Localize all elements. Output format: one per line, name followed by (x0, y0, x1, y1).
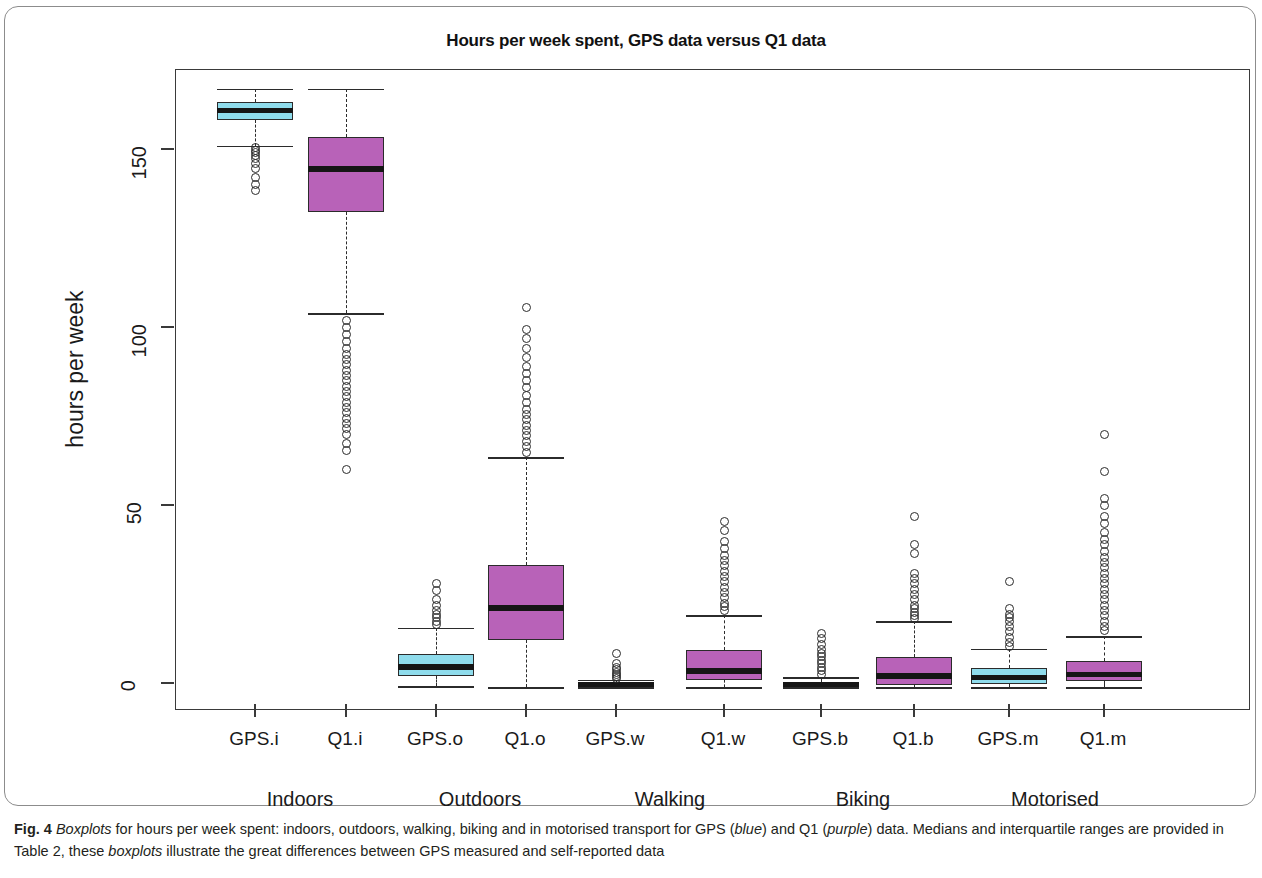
y-axis-title: hours per week (62, 290, 89, 447)
x-tick-label-q1-o: Q1.o (504, 728, 545, 750)
y-tick-label: 100 (128, 324, 151, 357)
whisker-cap-lower (1066, 687, 1142, 689)
group-label-biking: Biking (836, 788, 890, 811)
group-label-indoors: Indoors (267, 788, 334, 811)
caption-segment: Boxplots (56, 821, 112, 837)
x-tick-mark (820, 704, 822, 717)
outlier-point (1100, 519, 1109, 528)
figure-title: Hours per week spent, GPS data versus Q1… (5, 31, 1262, 51)
plot-area (175, 69, 1250, 710)
x-tick-label-gps-b: GPS.b (792, 728, 848, 750)
caption-segment: illustrate the great differences between… (162, 843, 664, 859)
x-tick-label-q1-m: Q1.m (1080, 728, 1126, 750)
caption-segment: purple (827, 821, 867, 837)
boxplot-q1-m (176, 70, 1249, 709)
outlier-point (1100, 501, 1109, 510)
y-tick-mark (161, 326, 174, 328)
outlier-point (1100, 467, 1109, 476)
x-tick-label-gps-i: GPS.i (229, 728, 279, 750)
x-tick-mark (254, 704, 256, 717)
group-label-outdoors: Outdoors (439, 788, 521, 811)
figure-caption: Fig. 4 Boxplots for hours per week spent… (14, 818, 1250, 863)
y-tick-label: 50 (123, 502, 146, 524)
y-tick-mark (161, 682, 174, 684)
x-tick-label-q1-b: Q1.b (892, 728, 933, 750)
median-line (1066, 672, 1142, 677)
boxplot-layer (176, 70, 1249, 709)
x-tick-label-gps-m: GPS.m (977, 728, 1038, 750)
x-tick-mark (345, 704, 347, 717)
caption-segment: for hours per week spent: indoors, outdo… (112, 821, 735, 837)
y-tick-label: 150 (128, 146, 151, 179)
group-label-motorised: Motorised (1011, 788, 1099, 811)
box-iqr (1066, 661, 1142, 681)
caption-segment: blue (735, 821, 762, 837)
whisker-upper (1104, 636, 1105, 661)
x-tick-label-q1-i: Q1.i (328, 728, 363, 750)
y-tick-label: 0 (117, 680, 140, 691)
x-tick-label-gps-w: GPS.w (585, 728, 644, 750)
caption-figure-number: Fig. 4 (14, 821, 52, 837)
outlier-point (1100, 430, 1109, 439)
x-tick-mark (525, 704, 527, 717)
group-label-walking: Walking (635, 788, 705, 811)
y-tick-mark (161, 504, 174, 506)
x-tick-mark (615, 704, 617, 717)
caption-text: Boxplots for hours per week spent: indoo… (14, 821, 1224, 859)
x-tick-label-gps-o: GPS.o (407, 728, 463, 750)
figure-card: Hours per week spent, GPS data versus Q1… (4, 6, 1256, 806)
x-tick-mark (723, 704, 725, 717)
x-tick-mark (435, 704, 437, 717)
x-tick-mark (1008, 704, 1010, 717)
x-tick-mark (1103, 704, 1105, 717)
caption-segment: boxplots (108, 843, 162, 859)
outlier-point (1100, 626, 1109, 635)
x-tick-mark (913, 704, 915, 717)
whisker-cap-upper (1066, 636, 1142, 638)
caption-segment: ) and Q1 ( (762, 821, 827, 837)
x-tick-label-q1-w: Q1.w (701, 728, 745, 750)
y-tick-mark (161, 148, 174, 150)
